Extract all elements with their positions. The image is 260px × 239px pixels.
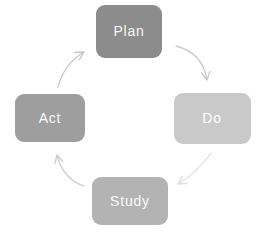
node-do: Do xyxy=(174,93,251,144)
arrow-act-to-plan-icon xyxy=(58,52,84,87)
node-act: Act xyxy=(15,94,85,142)
node-plan: Plan xyxy=(96,5,162,58)
pdsa-cycle-diagram: Plan Do Study Act xyxy=(0,0,260,239)
node-study-label: Study xyxy=(110,193,150,209)
node-plan-label: Plan xyxy=(113,23,144,39)
node-act-label: Act xyxy=(39,110,62,126)
arrow-plan-to-do-icon xyxy=(176,46,210,80)
node-do-label: Do xyxy=(202,110,222,126)
arrow-do-to-study-icon xyxy=(178,153,211,184)
arrow-study-to-act-icon xyxy=(55,155,84,186)
node-study: Study xyxy=(92,177,168,225)
